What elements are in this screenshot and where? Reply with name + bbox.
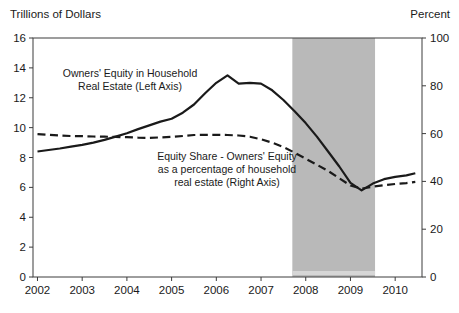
svg-text:2004: 2004 (114, 284, 140, 296)
annotation-line: Equity Share - Owners' Equity (143, 150, 311, 163)
svg-text:0: 0 (20, 271, 26, 283)
svg-text:4: 4 (20, 211, 27, 223)
left-axis-ticks: 1614121086420 (13, 32, 33, 283)
svg-text:100: 100 (430, 32, 449, 44)
svg-text:40: 40 (430, 175, 443, 187)
svg-text:2005: 2005 (159, 284, 185, 296)
svg-text:0: 0 (430, 271, 436, 283)
svg-text:10: 10 (13, 122, 26, 134)
svg-text:80: 80 (430, 80, 443, 92)
svg-text:8: 8 (20, 152, 26, 164)
svg-text:12: 12 (13, 92, 26, 104)
svg-text:14: 14 (13, 62, 26, 74)
series-label-owners-equity: Owners' Equity in Household Real Estate … (55, 67, 205, 93)
svg-text:6: 6 (20, 181, 26, 193)
right-axis-ticks: 100806040200 (422, 32, 449, 283)
svg-text:16: 16 (13, 32, 26, 44)
svg-text:2003: 2003 (69, 284, 95, 296)
chart-figure: Trillions of Dollars Percent 16141210864… (0, 0, 459, 313)
svg-text:2009: 2009 (338, 284, 364, 296)
svg-text:2010: 2010 (382, 284, 408, 296)
annotation-line: real estate (Right Axis) (143, 176, 311, 189)
annotation-line: Real Estate (Left Axis) (55, 80, 205, 93)
svg-text:2008: 2008 (293, 284, 319, 296)
svg-text:2007: 2007 (248, 284, 274, 296)
series-label-equity-share: Equity Share - Owners' Equity as a perce… (143, 150, 311, 189)
svg-text:2: 2 (20, 241, 26, 253)
annotation-line: as a percentage of household (143, 163, 311, 176)
x-axis-ticks: 200220032004200520062007200820092010 (25, 277, 408, 296)
svg-text:20: 20 (430, 223, 443, 235)
svg-text:2006: 2006 (204, 284, 230, 296)
svg-text:2002: 2002 (25, 284, 51, 296)
svg-text:60: 60 (430, 128, 443, 140)
annotation-line: Owners' Equity in Household (55, 67, 205, 80)
